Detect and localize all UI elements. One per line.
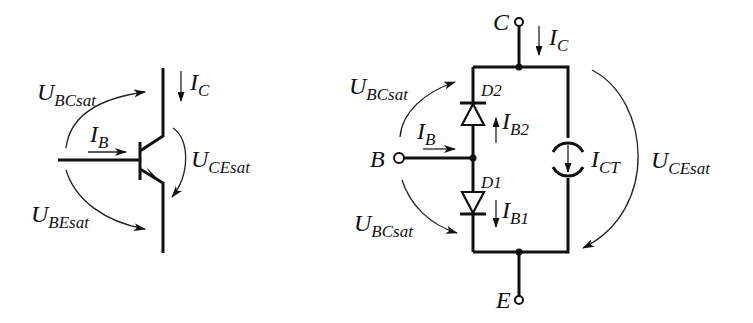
ib-label: IB bbox=[89, 121, 109, 152]
base-terminal-icon bbox=[394, 153, 404, 163]
ict-label: ICT bbox=[590, 146, 621, 177]
ubc-top-arc-arrow-icon bbox=[400, 82, 455, 137]
diode-d2-icon bbox=[460, 103, 486, 125]
diode-d1-icon bbox=[460, 192, 486, 214]
emitter-terminal-icon bbox=[515, 296, 523, 304]
ib2-label: IB2 bbox=[501, 108, 529, 139]
circuit-diagram: IC IB UBCsat UBEsat UCEsat bbox=[0, 0, 753, 323]
uce-right-label: UCEsat bbox=[651, 147, 711, 178]
emitter-lead bbox=[140, 169, 163, 253]
emitter-junction bbox=[516, 249, 523, 256]
ubc-top-label: UBCsat bbox=[349, 73, 409, 104]
base-junction bbox=[470, 155, 477, 162]
ubc-label: UBCsat bbox=[37, 79, 97, 110]
uce-arc-arrow-icon bbox=[172, 128, 186, 197]
current-source-icon bbox=[553, 143, 583, 176]
terminal-e-label: E bbox=[495, 287, 511, 313]
ib-right-label: IB bbox=[416, 118, 436, 149]
uce-label: UCEsat bbox=[191, 146, 251, 177]
terminal-b-label: B bbox=[370, 146, 385, 172]
ic-right-label: IC bbox=[548, 24, 569, 55]
collector-terminal-icon bbox=[515, 18, 523, 26]
collector-lead bbox=[140, 68, 163, 151]
terminal-c-label: C bbox=[493, 9, 510, 35]
diode-d2-label: D2 bbox=[480, 81, 502, 100]
ubc-bottom-label: UBCsat bbox=[354, 210, 414, 241]
ib1-label: IB1 bbox=[501, 197, 529, 228]
ic-label: IC bbox=[189, 69, 210, 100]
diode-d1-label: D1 bbox=[480, 173, 502, 192]
ube-label: UBEsat bbox=[31, 201, 90, 232]
equivalent-circuit bbox=[394, 18, 583, 304]
